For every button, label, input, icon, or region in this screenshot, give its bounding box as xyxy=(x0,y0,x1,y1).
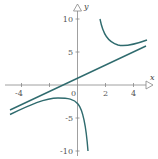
curve-upper-branch xyxy=(100,19,147,46)
y-tick-label: 5 xyxy=(68,48,73,57)
plot-area: -4 0 2 4 10 5 -5 -10 x y xyxy=(0,0,158,159)
curve-lower-branch xyxy=(10,98,88,151)
x-tick-label: 4 xyxy=(131,89,136,98)
y-tick-label: -10 xyxy=(60,147,73,156)
x-tick-label: 0 xyxy=(71,89,76,98)
y-tick-label: 10 xyxy=(63,15,73,24)
x-tick-label: -4 xyxy=(15,89,23,98)
asymptote-line xyxy=(10,46,146,110)
y-tick-label: -5 xyxy=(65,114,73,123)
x-tick-label: 2 xyxy=(103,89,108,98)
x-axis-label: x xyxy=(150,73,155,82)
x-axis-arrow-icon xyxy=(146,81,153,89)
y-axis-arrow-icon xyxy=(74,4,82,11)
y-axis-label: y xyxy=(83,2,89,11)
